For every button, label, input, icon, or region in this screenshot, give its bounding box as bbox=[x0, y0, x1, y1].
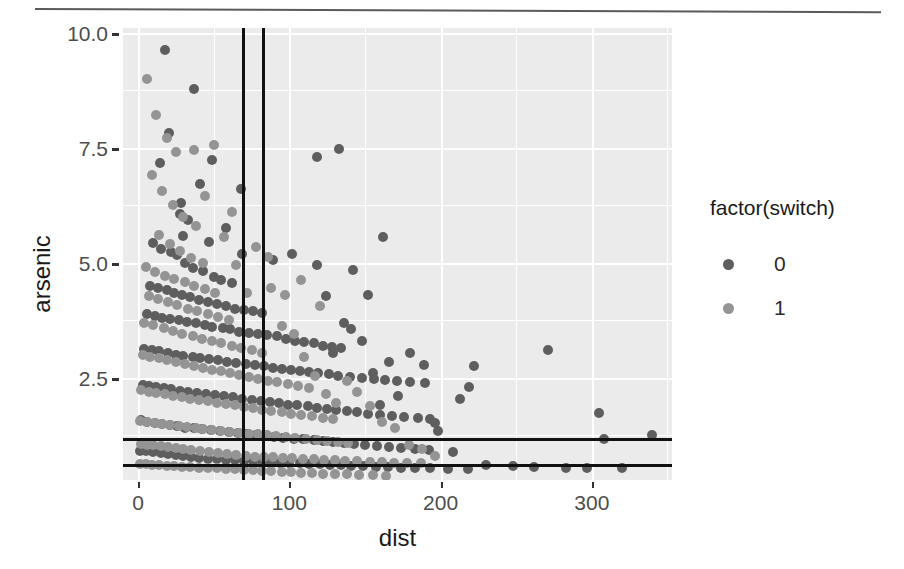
scatter-point bbox=[405, 348, 415, 358]
x-tick-label: 100 bbox=[272, 492, 307, 513]
scatter-point bbox=[287, 249, 297, 259]
scatter-points bbox=[123, 28, 672, 480]
scatter-point bbox=[191, 221, 201, 231]
scatter-point bbox=[203, 309, 213, 319]
scatter-point bbox=[354, 470, 364, 480]
scatter-point bbox=[357, 373, 367, 383]
scatter-point bbox=[352, 387, 362, 397]
scatter-point bbox=[189, 145, 199, 155]
scatter-point bbox=[393, 391, 403, 401]
horizontal-reference-line bbox=[123, 464, 672, 467]
y-tick-mark bbox=[112, 263, 119, 266]
scatter-point bbox=[216, 275, 226, 285]
scatter-point bbox=[318, 413, 328, 423]
scatter-point bbox=[399, 412, 409, 422]
x-tick-label: 0 bbox=[132, 492, 144, 513]
scatter-point bbox=[307, 411, 317, 421]
scatter-point bbox=[348, 265, 358, 275]
scatter-point bbox=[213, 312, 223, 322]
x-tick-mark bbox=[289, 482, 291, 488]
scatter-point bbox=[162, 133, 172, 143]
scatter-point bbox=[286, 467, 296, 477]
legend-entry[interactable]: 0 bbox=[710, 242, 890, 286]
scatter-point bbox=[200, 191, 210, 201]
scatter-point bbox=[594, 408, 604, 418]
scatter-point bbox=[253, 374, 263, 384]
page-top-rule bbox=[35, 8, 881, 13]
scatter-point bbox=[321, 291, 331, 301]
scatter-point bbox=[299, 337, 309, 347]
scatter-point bbox=[430, 418, 440, 428]
x-tick-mark bbox=[592, 482, 594, 488]
scatter-point bbox=[280, 290, 290, 300]
scatter-point bbox=[384, 357, 394, 367]
vertical-reference-line bbox=[262, 28, 265, 480]
scatter-point bbox=[309, 338, 319, 348]
scatter-point bbox=[404, 440, 414, 450]
scatter-point bbox=[189, 84, 199, 94]
scatter-point bbox=[231, 260, 241, 270]
scatter-point bbox=[413, 413, 423, 423]
scatter-point bbox=[312, 260, 322, 270]
scatter-point bbox=[286, 409, 296, 419]
scatter-point bbox=[307, 468, 317, 478]
scatter-point bbox=[147, 170, 157, 180]
legend-dot-icon bbox=[723, 303, 734, 314]
scatter-point bbox=[310, 371, 320, 381]
scatter-point bbox=[334, 144, 344, 154]
legend-entry[interactable]: 1 bbox=[710, 286, 890, 330]
legend: factor(switch) 01 bbox=[710, 196, 890, 330]
x-tick-mark bbox=[441, 482, 443, 488]
y-tick-mark bbox=[112, 33, 119, 36]
scatter-point bbox=[455, 394, 465, 404]
scatter-point bbox=[378, 232, 388, 242]
scatter-point bbox=[296, 275, 306, 285]
scatter-point bbox=[298, 454, 308, 464]
scatter-point bbox=[175, 246, 185, 256]
scatter-point bbox=[142, 74, 152, 84]
scatter-point bbox=[204, 237, 214, 247]
scatter-point bbox=[304, 383, 314, 393]
scatter-point bbox=[150, 267, 160, 277]
scatter-point bbox=[185, 292, 195, 302]
scatter-point bbox=[171, 147, 181, 157]
scatter-point bbox=[169, 274, 179, 284]
scatter-point bbox=[148, 320, 158, 330]
x-axis-label: dist bbox=[123, 524, 672, 552]
legend-entries: 01 bbox=[710, 242, 890, 330]
scatter-point bbox=[191, 318, 201, 328]
scatter-point bbox=[194, 295, 204, 305]
scatter-point bbox=[303, 401, 313, 411]
scatter-point bbox=[293, 381, 303, 391]
scatter-point bbox=[153, 294, 163, 304]
scatter-point bbox=[154, 230, 164, 240]
scatter-point bbox=[392, 376, 402, 386]
scatter-point bbox=[339, 318, 349, 328]
scatter-point bbox=[363, 290, 373, 300]
vertical-reference-line bbox=[242, 28, 245, 480]
y-axis-label: arsenic bbox=[28, 235, 56, 312]
x-tick-label: 300 bbox=[574, 492, 609, 513]
scatter-point bbox=[299, 352, 309, 362]
scatter-point bbox=[360, 440, 370, 450]
legend-label: 1 bbox=[774, 296, 786, 320]
scatter-point bbox=[178, 231, 188, 241]
legend-key bbox=[710, 259, 746, 270]
y-tick-label: 5.0 bbox=[0, 252, 108, 273]
scatter-point bbox=[231, 358, 241, 368]
scatter-point bbox=[186, 253, 196, 263]
scatter-point bbox=[188, 331, 198, 341]
y-tick-mark bbox=[112, 378, 119, 381]
scatter-point bbox=[365, 401, 375, 411]
scatter-point bbox=[381, 471, 391, 480]
scatter-point bbox=[315, 301, 325, 311]
scatter-point bbox=[390, 423, 400, 433]
scatter-point bbox=[266, 406, 276, 416]
scatter-point bbox=[420, 378, 430, 388]
x-tick-mark bbox=[138, 482, 140, 488]
scatter-point bbox=[168, 200, 178, 210]
scatter-point bbox=[330, 469, 340, 479]
scatter-point bbox=[207, 155, 217, 165]
scatter-point bbox=[296, 410, 306, 420]
scatter-point bbox=[419, 360, 429, 370]
